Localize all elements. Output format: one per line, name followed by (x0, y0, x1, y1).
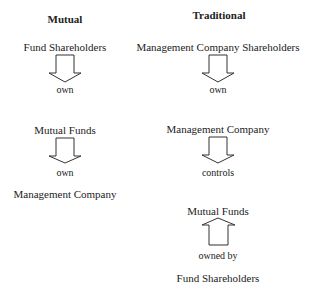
traditional-relation-owned-by: owned by (198, 250, 237, 261)
mutual-relation-own-2: own (56, 167, 73, 178)
traditional-node-management-company: Management Company (167, 123, 270, 135)
mutual-relation-own-1: own (56, 84, 73, 95)
traditional-node-mgmt-co-shareholders: Management Company Shareholders (136, 41, 299, 53)
traditional-relation-own: own (209, 84, 226, 95)
arrow-down-icon (193, 55, 243, 85)
traditional-relation-controls: controls (202, 167, 234, 178)
mutual-heading: Mutual (48, 13, 83, 25)
arrow-down-icon (40, 55, 90, 85)
arrow-down-icon (193, 137, 243, 167)
mutual-node-fund-shareholders: Fund Shareholders (24, 41, 107, 53)
mutual-node-management-company: Management Company (14, 188, 117, 200)
traditional-node-mutual-funds: Mutual Funds (187, 205, 248, 217)
traditional-node-fund-shareholders: Fund Shareholders (177, 272, 260, 284)
mutual-node-mutual-funds: Mutual Funds (34, 124, 95, 136)
traditional-heading: Traditional (193, 9, 246, 21)
arrow-up-icon (193, 218, 243, 248)
arrow-down-icon (40, 138, 90, 168)
